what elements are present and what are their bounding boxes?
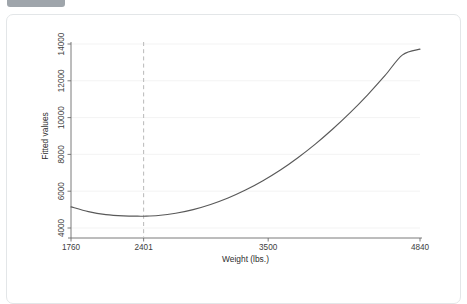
y-axis-tick-label: 10000	[57, 106, 66, 129]
y-axis-tick-label: 8000	[57, 145, 66, 164]
x-axis-tick-label: 2401	[135, 243, 154, 252]
x-axis-tick-label: 3500	[259, 243, 278, 252]
y-axis-tick-label: 4000	[57, 218, 66, 237]
x-axis-tick-label: 4840	[411, 243, 430, 252]
y-axis-title: Fitted values	[40, 112, 50, 159]
x-axis-title: Weight (lbs.)	[222, 254, 269, 264]
y-axis-tick-label: 12000	[57, 69, 66, 92]
x-axis-tick-label: 1760	[62, 243, 81, 252]
y-axis-tick-label: 14000	[57, 32, 66, 55]
y-axis-tick-label: 6000	[57, 182, 66, 201]
